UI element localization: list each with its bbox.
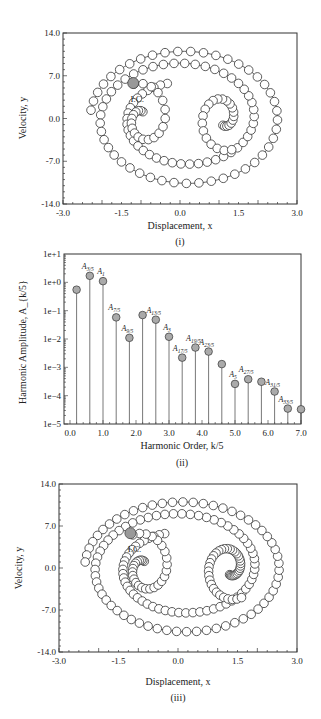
x-tick-label: 4.0 — [196, 428, 208, 438]
y-tick-label: 1e+0 — [43, 277, 62, 287]
harmonic-label-subscript: 17/5 — [178, 348, 188, 354]
sample-point — [236, 511, 245, 520]
sample-point — [158, 499, 167, 508]
sample-point — [148, 51, 157, 60]
sample-point — [207, 177, 216, 186]
y-tick-label: 1e−3 — [43, 362, 62, 372]
harmonic-label-subscript: 3/5 — [86, 266, 94, 272]
stem-marker — [244, 375, 252, 383]
harmonic-label-subscript: 13/5 — [151, 310, 161, 316]
sample-point — [96, 111, 105, 120]
sample-point — [227, 74, 236, 83]
harmonic-label: A27/5 — [238, 365, 254, 375]
y-tick-label: 7.0 — [45, 521, 57, 531]
sample-point — [163, 626, 172, 635]
harmonic-label-subscript: 5 — [234, 374, 237, 380]
trajectory — [87, 47, 282, 188]
stem-marker — [205, 348, 213, 356]
sample-point — [161, 48, 170, 57]
x-tick-label: -1.5 — [114, 208, 129, 218]
sample-point — [121, 510, 130, 519]
sample-point — [158, 96, 167, 105]
sample-point — [244, 66, 253, 75]
sample-point — [198, 119, 207, 128]
sample-point — [199, 49, 208, 58]
x-axis-label: Harmonic Order, k/5 — [140, 440, 223, 451]
y-tick-label: -14.0 — [37, 647, 56, 657]
sample-point — [158, 176, 167, 185]
y-tick-label: -7.0 — [46, 156, 61, 166]
sample-point — [199, 499, 208, 508]
sample-point — [168, 498, 177, 507]
sample-point — [185, 160, 194, 169]
sample-point — [170, 59, 179, 68]
sample-point — [129, 70, 138, 79]
x-tick-label: 7.0 — [295, 428, 307, 438]
sample-point — [177, 160, 186, 169]
sample-point — [202, 626, 211, 635]
trajectory — [81, 498, 284, 636]
sample-point — [159, 60, 168, 69]
sample-point — [104, 143, 113, 152]
sample-point — [241, 165, 250, 174]
sample-point — [89, 97, 98, 106]
y-tick-label: 0.0 — [45, 563, 57, 573]
x-tick-label: 0.0 — [64, 428, 76, 438]
sample-point — [231, 618, 240, 627]
stem-marker — [165, 333, 173, 341]
sample-point — [136, 55, 145, 64]
x-tick-label: 3.0 — [291, 656, 303, 666]
x-tick-label: -3.0 — [52, 656, 67, 666]
harmonic-label: A17/5 — [172, 344, 188, 354]
y-tick-label: 1e−2 — [43, 334, 61, 344]
sample-point — [194, 159, 203, 168]
stem-marker — [126, 334, 134, 342]
x-tick-label: 2.0 — [130, 428, 142, 438]
x-tick-label: 0.0 — [174, 208, 186, 218]
sample-point — [161, 105, 170, 114]
sample-point — [129, 507, 138, 516]
sample-point — [107, 87, 116, 96]
sample-point — [172, 627, 181, 636]
panel-caption: (ii) — [176, 457, 188, 469]
stem-marker — [178, 354, 186, 362]
panel-caption: (iii) — [171, 692, 186, 704]
sample-point — [99, 80, 108, 89]
sample-point — [227, 145, 236, 154]
harmonic-label: A13/5 — [145, 306, 161, 316]
stem-marker — [152, 316, 160, 324]
y-axis-label: Harmonic Amplitude, A_{k/5} — [17, 280, 28, 404]
sample-point — [174, 47, 183, 56]
sample-point — [135, 619, 144, 628]
sample-point — [93, 88, 102, 97]
sample-point — [180, 59, 189, 68]
sample-point — [139, 66, 148, 75]
y-tick-label: -14.0 — [41, 199, 60, 209]
sample-point — [152, 511, 161, 520]
sample-point — [201, 62, 210, 71]
sample-point — [87, 106, 96, 115]
sample-point — [231, 170, 240, 179]
y-axis-label: Velocity, y — [17, 97, 28, 140]
sample-point — [159, 122, 168, 131]
sample-point — [169, 510, 178, 519]
harmonic-label-subscript: 23/5 — [204, 342, 214, 348]
stem-marker — [218, 360, 226, 368]
y-tick-label: 14.0 — [44, 28, 60, 38]
harmonic-label: A9/5 — [120, 324, 133, 334]
x-tick-label: 1.5 — [232, 656, 244, 666]
sample-point — [244, 516, 253, 525]
sample-point — [127, 615, 136, 624]
sample-point — [234, 60, 243, 69]
y-tick-label: 14.0 — [40, 479, 56, 489]
sample-point — [81, 558, 90, 567]
sample-point — [273, 107, 282, 116]
y-tick-label: 1e−4 — [43, 391, 62, 401]
sample-point — [146, 173, 155, 182]
sample-point — [161, 510, 170, 519]
stem-marker — [99, 277, 107, 285]
sample-point — [149, 62, 158, 71]
stem-marker — [284, 405, 292, 413]
sample-point — [272, 125, 281, 134]
sample-point — [219, 174, 228, 183]
